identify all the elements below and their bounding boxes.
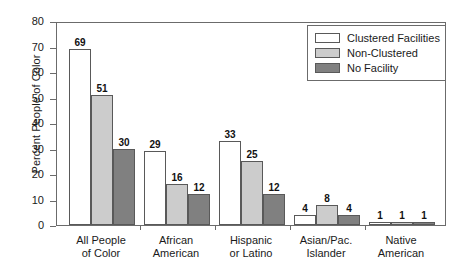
bar[interactable]: 4 (338, 215, 360, 225)
bar-value-label: 29 (149, 140, 160, 150)
bar-value-label: 4 (302, 204, 308, 214)
bar[interactable]: 4 (294, 215, 316, 225)
y-tick-label: 20 (32, 168, 44, 180)
bar[interactable]: 69 (69, 49, 91, 225)
x-axis-tick (215, 225, 216, 230)
legend-swatch (315, 63, 340, 73)
bar-value-label: 8 (324, 194, 330, 204)
bar-value-label: 16 (171, 173, 182, 183)
y-tick-label: 70 (32, 41, 44, 53)
y-tick-label: 30 (32, 143, 44, 155)
x-axis-tick (290, 225, 291, 230)
legend: Clustered FacilitiesNon-ClusteredNo Faci… (307, 25, 446, 81)
bar-value-label: 25 (246, 150, 257, 160)
bar-chart: Percent People of Color 0102030405060708… (0, 0, 467, 279)
bar[interactable]: 1 (369, 222, 391, 225)
bar[interactable]: 25 (241, 161, 263, 225)
y-tick-mark (50, 226, 56, 227)
bar-group: 332512 (219, 23, 285, 225)
legend-item[interactable]: Clustered Facilities (315, 31, 439, 45)
x-axis-category-line: American (343, 247, 459, 260)
bar[interactable]: 12 (263, 194, 285, 225)
x-axis-tick (365, 225, 366, 230)
bar-value-label: 69 (74, 38, 85, 48)
bar[interactable]: 8 (316, 205, 338, 225)
bar-group: 695130 (69, 23, 135, 225)
bar[interactable]: 1 (391, 222, 413, 225)
bar[interactable]: 1 (413, 222, 435, 225)
bar-value-label: 1 (399, 211, 405, 221)
bar[interactable]: 16 (166, 184, 188, 225)
bar-value-label: 4 (346, 204, 352, 214)
bar[interactable]: 29 (144, 151, 166, 225)
bar-value-label: 33 (224, 130, 235, 140)
bar-value-label: 12 (193, 183, 204, 193)
bar-value-label: 30 (118, 138, 129, 148)
y-tick-label: 40 (32, 117, 44, 129)
y-tick-label: 0 (38, 219, 44, 231)
y-tick-label: 50 (32, 92, 44, 104)
legend-swatch (315, 33, 340, 43)
x-axis-category-label: NativeAmerican (343, 234, 459, 260)
y-tick-label: 60 (32, 66, 44, 78)
legend-item[interactable]: No Facility (315, 61, 439, 75)
bar[interactable]: 51 (91, 95, 113, 225)
legend-label: Non-Clustered (347, 47, 418, 59)
bar-value-label: 51 (96, 84, 107, 94)
bar[interactable]: 30 (113, 149, 135, 226)
bar-value-label: 12 (268, 183, 279, 193)
bar[interactable]: 33 (219, 141, 241, 225)
legend-item[interactable]: Non-Clustered (315, 46, 439, 60)
bar-value-label: 1 (421, 211, 427, 221)
y-tick-label: 10 (32, 194, 44, 206)
legend-label: No Facility (347, 62, 398, 74)
legend-swatch (315, 48, 340, 58)
bar-group: 291612 (144, 23, 210, 225)
bar-value-label: 1 (377, 211, 383, 221)
x-axis-tick (140, 225, 141, 230)
x-axis-category-line: Native (343, 234, 459, 247)
legend-label: Clustered Facilities (347, 32, 440, 44)
y-tick-label: 80 (32, 15, 44, 27)
bar[interactable]: 12 (188, 194, 210, 225)
